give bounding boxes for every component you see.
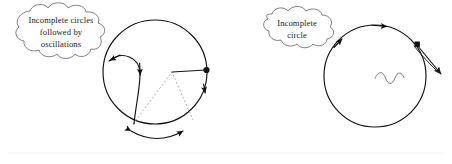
left-loop-arrowhead-mid [140,63,141,75]
left-radius-line [172,70,206,72]
diagram-canvas: Incomplete circles followed by oscillati… [0,0,452,164]
right-callout-line-1: Incomplete [277,18,317,28]
left-callout-cloud: Incomplete circles followed by oscillati… [16,3,105,59]
right-exit-curve [414,46,438,72]
left-main-circle [103,20,207,124]
diagram-svg: Incomplete circles followed by oscillati… [0,0,452,164]
left-dashed-triangle [133,72,193,124]
left-callout-line-2: followed by [40,27,83,37]
left-loop-arrowhead-upper [110,55,120,61]
right-callout-line-2: circle [287,30,307,40]
right-callout-cloud: Incomplete circle [264,7,334,48]
left-double-arrow-arc [131,131,183,139]
left-panel: Incomplete circles followed by oscillati… [16,3,210,139]
left-callout-line-1: Incomplete circles [28,15,94,25]
right-panel: Incomplete circle [264,7,441,128]
right-tangent-exit-arrow [417,45,441,74]
left-endpoint-dot [203,67,209,73]
right-main-circle [324,25,426,127]
right-oscillation-squiggle [375,73,404,84]
left-callout-line-3: oscillations [41,39,82,49]
